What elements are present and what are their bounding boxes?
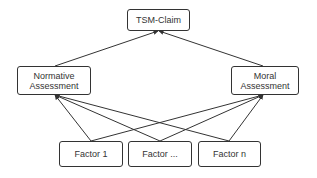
node-factor-ellipsis: Factor ... (128, 141, 192, 167)
diagram-canvas: TSM-Claim Normative Assessment Moral Ass… (0, 0, 317, 178)
node-label-line1: Normative (33, 71, 74, 81)
node-factor-n: Factor n (198, 141, 261, 167)
node-label-line2: Assessment (240, 81, 289, 91)
edge-factor1-to-moral (91, 95, 263, 141)
edge-normative-to-claim (55, 31, 158, 66)
edge-moral-to-claim (159, 31, 263, 66)
node-label: Factor ... (142, 149, 178, 159)
node-tsm-claim: TSM-Claim (127, 9, 190, 31)
node-label-line1: Moral (254, 71, 277, 81)
node-normative-assessment: Normative Assessment (17, 66, 91, 95)
node-label: TSM-Claim (136, 15, 181, 25)
node-label: Factor n (213, 149, 246, 159)
node-moral-assessment: Moral Assessment (231, 66, 299, 95)
node-label-line2: Assessment (29, 81, 78, 91)
node-factor-1: Factor 1 (59, 141, 123, 167)
edge-factor-n-to-normative (55, 95, 229, 141)
edge-factor-n-to-moral (229, 95, 263, 141)
edge-factor1-to-normative (55, 95, 91, 141)
node-label: Factor 1 (74, 149, 107, 159)
edge-factor-mid-to-normative (55, 95, 160, 141)
